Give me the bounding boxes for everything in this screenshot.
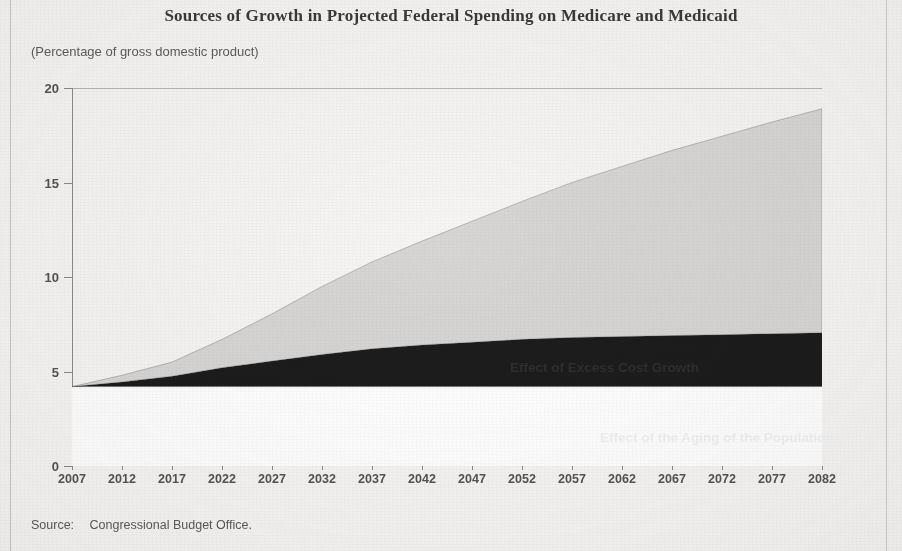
x-axis-tick <box>522 466 523 470</box>
x-axis-tick <box>122 466 123 470</box>
source-note: Source: Congressional Budget Office. <box>31 518 252 532</box>
x-axis-tick <box>472 466 473 470</box>
y-axis-label: 20 <box>45 81 59 96</box>
figure-page: Sources of Growth in Projected Federal S… <box>0 0 902 551</box>
x-axis-tick <box>372 466 373 470</box>
x-axis-label: 2012 <box>108 472 136 486</box>
series-label-excess-cost-growth: Effect of Excess Cost Growth <box>510 360 699 375</box>
x-axis-label: 2067 <box>658 472 686 486</box>
x-axis-label: 2082 <box>808 472 836 486</box>
x-axis-label: 2017 <box>158 472 186 486</box>
page-border-right <box>886 0 887 551</box>
x-axis-label: 2032 <box>308 472 336 486</box>
x-axis-label: 2052 <box>508 472 536 486</box>
x-axis-tick <box>822 466 823 470</box>
x-axis-tick <box>72 466 73 470</box>
y-axis-label: 5 <box>52 364 59 379</box>
source-text: Congressional Budget Office. <box>90 518 252 532</box>
x-axis-label: 2037 <box>358 472 386 486</box>
x-axis-tick <box>322 466 323 470</box>
x-axis-tick <box>672 466 673 470</box>
x-axis-tick <box>172 466 173 470</box>
x-axis-label: 2057 <box>558 472 586 486</box>
x-axis-label: 2007 <box>58 472 86 486</box>
y-axis-label: 10 <box>45 270 59 285</box>
x-axis-label: 2042 <box>408 472 436 486</box>
y-axis-tick <box>64 183 73 184</box>
y-axis-tick <box>64 277 73 278</box>
x-axis-tick <box>622 466 623 470</box>
x-axis-label: 2077 <box>758 472 786 486</box>
area-baseline-spending-2007-level <box>72 387 822 466</box>
x-axis-tick <box>422 466 423 470</box>
x-axis-tick <box>572 466 573 470</box>
chart-title: Sources of Growth in Projected Federal S… <box>0 6 902 26</box>
plot-area: 05101520 2007201220172022202720322037204… <box>72 88 822 466</box>
x-axis-label: 2027 <box>258 472 286 486</box>
x-axis-label: 2047 <box>458 472 486 486</box>
stacked-area-series <box>72 88 822 466</box>
x-axis-label: 2072 <box>708 472 736 486</box>
page-border-left <box>10 0 11 551</box>
x-axis-tick <box>272 466 273 470</box>
series-label-aging-population: Effect of the Aging of the Population <box>600 430 833 445</box>
x-axis-label: 2022 <box>208 472 236 486</box>
x-axis-tick <box>772 466 773 470</box>
x-axis-tick <box>722 466 723 470</box>
source-label: Source: <box>31 518 74 532</box>
y-axis-label: 15 <box>45 175 59 190</box>
y-axis-tick <box>64 88 73 89</box>
y-axis-tick <box>64 372 73 373</box>
x-axis-tick <box>222 466 223 470</box>
x-axis-label: 2062 <box>608 472 636 486</box>
chart-subtitle: (Percentage of gross domestic product) <box>31 44 259 59</box>
